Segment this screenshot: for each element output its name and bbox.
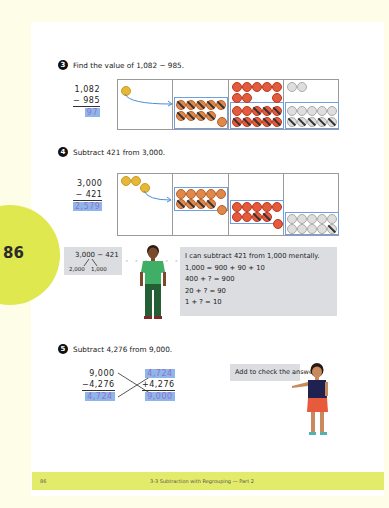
ten-disc — [242, 106, 252, 116]
one-disc — [297, 224, 307, 234]
footer-page-number: 86 — [40, 478, 46, 484]
sum-box: 9,000 — [145, 392, 174, 401]
tens-column — [229, 80, 284, 129]
girl-character-icon — [290, 362, 334, 438]
ten-disc — [242, 212, 252, 222]
problem-4-place-value-chart — [117, 173, 339, 236]
problem-5-prompt: Subtract 4,276 from 9,000. — [73, 345, 172, 354]
answer-box: 97 — [85, 108, 100, 117]
thousand-disc — [131, 176, 141, 186]
mental-line-1: I can subtract 421 from 1,000 mentally. — [185, 251, 320, 263]
ten-disc — [232, 82, 242, 92]
one-disc — [287, 224, 297, 234]
bond-left: 2,000 — [69, 266, 85, 272]
subtrahend: −4,276 — [82, 379, 115, 391]
mental-line-4: 20 + ? = 90 — [185, 286, 320, 298]
one-disc — [287, 214, 297, 224]
one-disc — [307, 224, 317, 234]
ten-disc — [262, 117, 272, 127]
bond-expression: 3,000 − 421 — [75, 251, 119, 259]
one-disc — [327, 224, 337, 234]
ten-disc — [272, 82, 282, 92]
ones-column — [284, 174, 338, 235]
problem-5-check-addition: 4,724 +4,276 9,000 — [142, 368, 175, 402]
problem-4-calculation: 3,000 − 421 2,579 — [73, 178, 102, 212]
ten-disc — [272, 202, 282, 212]
hundred-disc — [217, 205, 227, 215]
one-disc — [297, 214, 307, 224]
ten-disc — [252, 202, 262, 212]
one-disc — [317, 106, 327, 116]
problem-5-badge: 5 — [58, 344, 68, 354]
ten-disc — [242, 117, 252, 127]
ten-disc — [262, 82, 272, 92]
problem-4-header: 4 Subtract 421 from 3,000. — [58, 147, 165, 157]
ten-disc — [242, 93, 252, 103]
ten-disc — [242, 82, 252, 92]
minuend: 3,000 — [73, 178, 102, 189]
page-footer: 86 3-3 Subtraction with Regrouping — Par… — [32, 472, 384, 490]
ten-disc — [273, 219, 283, 229]
thousands-column — [118, 80, 173, 129]
one-disc — [307, 106, 317, 116]
minuend: 9,000 — [82, 368, 115, 379]
one-disc — [297, 117, 307, 127]
ten-disc — [232, 202, 242, 212]
ten-disc — [232, 212, 242, 222]
thousands-column — [118, 174, 173, 235]
ones-column — [284, 80, 338, 129]
problem-3-prompt: Find the value of 1,082 − 985. — [73, 61, 184, 70]
one-disc — [287, 117, 297, 127]
number-bond-bubble: 3,000 − 421 2,000 1,000 — [64, 247, 122, 275]
problem-4-badge: 4 — [58, 147, 68, 157]
problem-3-place-value-chart — [117, 79, 339, 130]
problem-3-calculation: 1,082 − 985 97 — [73, 84, 100, 118]
ten-disc — [272, 93, 282, 103]
problem-5-subtraction: 9,000 −4,276 4,724 — [82, 368, 115, 402]
answer-box: 4,724 — [85, 392, 114, 401]
addend-box: 4,724 — [145, 369, 174, 378]
mental-math-bubble: I can subtract 421 from 1,000 mentally. … — [180, 247, 337, 316]
ten-disc — [232, 93, 242, 103]
thought-dots-right: • • — [165, 257, 180, 264]
problem-4-prompt: Subtract 421 from 3,000. — [73, 148, 165, 157]
bond-right: 1,000 — [91, 266, 107, 272]
one-disc — [317, 117, 327, 127]
ten-disc — [262, 106, 272, 116]
one-disc — [327, 106, 337, 116]
hundreds-column — [173, 80, 228, 129]
ten-disc — [252, 212, 262, 222]
ten-disc — [232, 106, 242, 116]
problem-3-badge: 3 — [58, 60, 68, 70]
one-disc — [327, 117, 337, 127]
footer-title: 3-3 Subtraction with Regrouping — Part 2 — [150, 478, 254, 484]
subtrahend: − 421 — [73, 189, 102, 201]
thousand-disc — [121, 176, 131, 186]
ten-disc — [232, 117, 242, 127]
hundreds-column — [173, 174, 228, 235]
ten-disc — [272, 117, 282, 127]
one-disc — [287, 106, 297, 116]
addend: +4,276 — [142, 379, 175, 391]
subtrahend: − 985 — [73, 95, 100, 107]
regroup-arrow-icon — [123, 92, 175, 108]
one-disc — [297, 106, 307, 116]
ten-disc — [262, 212, 272, 222]
one-disc — [317, 224, 327, 234]
mental-line-2: 1,000 = 900 + 90 + 10 — [185, 263, 320, 275]
page-tab-number: 86 — [3, 244, 24, 262]
boy-character-icon — [137, 244, 169, 322]
regroup-arrow-icon — [142, 190, 174, 204]
mental-line-3: 400 + ? = 900 — [185, 274, 320, 286]
one-disc — [287, 82, 297, 92]
one-disc — [307, 117, 317, 127]
minuend: 1,082 — [73, 84, 100, 95]
ten-disc — [272, 106, 282, 116]
tens-column — [229, 174, 284, 235]
one-disc — [307, 214, 317, 224]
problem-3-header: 3 Find the value of 1,082 − 985. — [58, 60, 184, 70]
answer-box: 2,579 — [73, 202, 102, 211]
one-disc — [317, 214, 327, 224]
mental-line-5: 1 + ? = 10 — [185, 297, 320, 309]
problem-5-header: 5 Subtract 4,276 from 9,000. — [58, 344, 172, 354]
